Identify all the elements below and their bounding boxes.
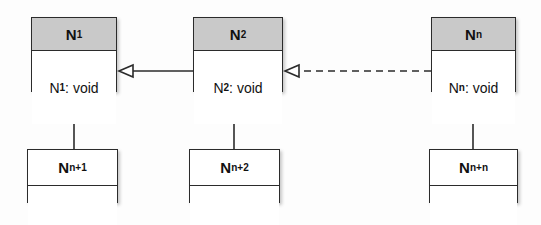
connector-n2-to-n1-arrowhead xyxy=(119,65,133,77)
connector-n2-to-n1 xyxy=(119,65,193,77)
class-node-nnn[interactable]: Nn+n xyxy=(429,149,518,203)
uml-class-diagram: N1 N1: void N2 N2: void Nn Nn: void Nn+1… xyxy=(0,0,541,225)
class-node-nn1-empty-compartment xyxy=(28,186,117,225)
class-node-n1[interactable]: N1 N1: void xyxy=(31,17,117,92)
class-node-n1-name-subscript: 1 xyxy=(77,29,83,40)
class-node-n2-name-subscript: 2 xyxy=(241,29,247,40)
class-node-n1-operation-suffix: : void xyxy=(65,80,98,96)
class-node-nn[interactable]: Nn Nn: void xyxy=(431,17,516,92)
class-node-nn1-name: Nn+1 xyxy=(28,150,117,186)
class-node-nn2-name: Nn+2 xyxy=(190,150,279,186)
class-node-nn-name-subscript: n xyxy=(476,29,482,40)
class-node-n1-operation: N1: void xyxy=(32,51,116,124)
class-node-nn1[interactable]: Nn+1 xyxy=(27,149,118,203)
class-node-nn-name: Nn xyxy=(432,18,515,51)
connector-nn-to-n2-arrowhead xyxy=(285,65,299,77)
class-node-n2-operation: N2: void xyxy=(194,51,282,124)
class-node-nnn-name: Nn+n xyxy=(430,150,517,186)
class-node-nn2[interactable]: Nn+2 xyxy=(189,149,280,203)
class-node-nn2-name-subscript: n+2 xyxy=(231,162,249,173)
class-node-nn2-empty-compartment xyxy=(190,186,279,225)
class-node-nn1-name-subscript: n+1 xyxy=(69,162,87,173)
class-node-nn-operation: Nn: void xyxy=(432,51,515,124)
class-node-nnn-name-subscript: n+n xyxy=(470,162,488,173)
class-node-nn-operation-suffix: : void xyxy=(465,80,498,96)
class-node-nnn-empty-compartment xyxy=(430,186,517,225)
connector-nn-to-n2 xyxy=(285,65,431,77)
class-node-n2-operation-suffix: : void xyxy=(229,80,262,96)
class-node-n2-name: N2 xyxy=(194,18,282,51)
class-node-n1-name: N1 xyxy=(32,18,116,51)
class-node-n2[interactable]: N2 N2: void xyxy=(193,17,283,92)
